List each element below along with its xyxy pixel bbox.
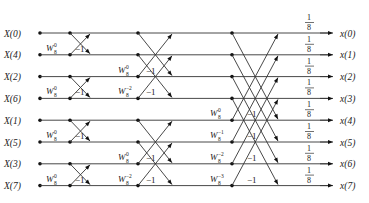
twiddle-stage1: W08 (46, 42, 57, 55)
twiddle-stage1: W08 (46, 173, 57, 186)
output-label-6: x(6) (339, 159, 355, 170)
butterfly-branch (232, 77, 278, 163)
scale-factor: 18 (305, 122, 314, 141)
output-label-7: x(7) (339, 181, 355, 192)
scale-numerator: 1 (307, 100, 311, 109)
arrowhead-icon (328, 31, 333, 35)
scale-factor: 18 (305, 100, 314, 119)
twiddle-exponent: −2 (218, 151, 224, 157)
input-label-0: X(0) (3, 29, 21, 40)
arrowhead-icon (274, 114, 278, 119)
scale-factor: 18 (305, 13, 314, 32)
arrowhead-icon (328, 162, 333, 166)
scale-numerator: 1 (307, 78, 311, 87)
twiddle-stage2: W08 (118, 151, 129, 164)
twiddle-exponent: −1 (218, 129, 224, 135)
arrowhead-icon (328, 140, 333, 144)
arrowhead-icon (328, 184, 333, 188)
twiddle-subscript: 8 (126, 71, 129, 77)
output-label-4: x(4) (339, 116, 355, 127)
arrowhead-icon (328, 118, 333, 122)
scale-denominator: 8 (307, 45, 311, 54)
twiddle-subscript: 8 (218, 136, 221, 142)
node-dot (230, 97, 234, 101)
scale-numerator: 1 (307, 122, 311, 131)
twiddle-subscript: 8 (126, 92, 129, 98)
twiddle-subscript: 8 (126, 180, 129, 186)
arrowhead-icon (274, 56, 278, 61)
scale-denominator: 8 (307, 110, 311, 119)
scale-denominator: 8 (307, 132, 311, 141)
scale-numerator: 1 (307, 13, 311, 22)
scale-factor: 18 (305, 144, 314, 163)
arrowhead-icon (274, 179, 278, 184)
output-label-3: x(3) (339, 94, 355, 105)
scale-factor: 18 (305, 166, 314, 185)
output-label-2: x(2) (339, 72, 355, 83)
input-label-1: X(4) (3, 50, 21, 61)
scale-denominator: 8 (307, 67, 311, 76)
output-label-1: x(1) (339, 50, 355, 61)
arrowhead-icon (274, 99, 278, 104)
minus-one-label: −1 (75, 44, 85, 54)
twiddle-exponent: −3 (218, 173, 224, 179)
twiddle-subscript: 8 (54, 92, 57, 98)
twiddle-exponent: −2 (126, 85, 132, 91)
twiddle-exponent: 0 (126, 151, 129, 157)
twiddle-subscript: 8 (54, 49, 57, 55)
twiddle-stage3: W−28 (210, 151, 224, 164)
twiddle-subscript: 8 (126, 158, 129, 164)
twiddle-stage3: W08 (210, 107, 221, 120)
twiddle-stage2: W−28 (118, 173, 132, 186)
scale-denominator: 8 (307, 154, 311, 163)
minus-one-label: −1 (75, 131, 85, 141)
butterfly-diagram: X(0)x(0)18X(4)x(1)18X(2)x(2)18X(6)x(3)18… (0, 0, 369, 203)
scale-factor: 18 (305, 35, 314, 54)
minus-one-label: −1 (146, 175, 156, 185)
scale-denominator: 8 (307, 23, 311, 32)
scale-factor: 18 (305, 57, 314, 76)
arrowhead-icon (274, 34, 278, 39)
twiddle-stage1: W08 (46, 129, 57, 142)
scale-numerator: 1 (307, 144, 311, 153)
arrowhead-icon (274, 136, 278, 141)
twiddle-stage2: W08 (118, 64, 129, 77)
twiddle-exponent: 0 (126, 64, 129, 70)
scale-factor: 18 (305, 78, 314, 97)
arrowhead-icon (328, 75, 333, 79)
twiddle-stage1: W08 (46, 85, 57, 98)
scale-numerator: 1 (307, 57, 311, 66)
scale-denominator: 8 (307, 88, 311, 97)
input-label-6: X(3) (3, 159, 21, 170)
input-label-4: X(1) (3, 116, 21, 127)
input-label-3: X(6) (3, 94, 21, 105)
twiddle-stage3: W−18 (210, 129, 224, 142)
twiddle-exponent: 0 (54, 173, 57, 179)
arrowhead-icon (328, 53, 333, 57)
scale-numerator: 1 (307, 35, 311, 44)
twiddle-subscript: 8 (218, 114, 221, 120)
twiddle-exponent: 0 (218, 107, 221, 113)
twiddle-stage3: W−38 (210, 173, 224, 186)
twiddle-subscript: 8 (54, 136, 57, 142)
input-label-2: X(2) (3, 72, 21, 83)
minus-one-label: −1 (75, 87, 85, 97)
twiddle-subscript: 8 (218, 180, 221, 186)
twiddle-subscript: 8 (218, 158, 221, 164)
butterfly-branch (232, 56, 278, 142)
arrowhead-icon (274, 157, 278, 162)
twiddle-exponent: 0 (54, 129, 57, 135)
butterfly-branch (232, 78, 278, 164)
butterfly-branch (232, 34, 278, 120)
input-label-7: X(7) (3, 181, 21, 192)
output-label-5: x(5) (339, 138, 355, 149)
arrowhead-icon (274, 78, 278, 83)
scale-denominator: 8 (307, 176, 311, 185)
butterfly-branch (232, 33, 278, 119)
minus-one-label: −1 (247, 175, 257, 185)
twiddle-exponent: 0 (54, 85, 57, 91)
butterfly-branch (232, 55, 278, 141)
twiddle-stage2: W−28 (118, 85, 132, 98)
scale-numerator: 1 (307, 166, 311, 175)
node-dot (230, 75, 234, 79)
